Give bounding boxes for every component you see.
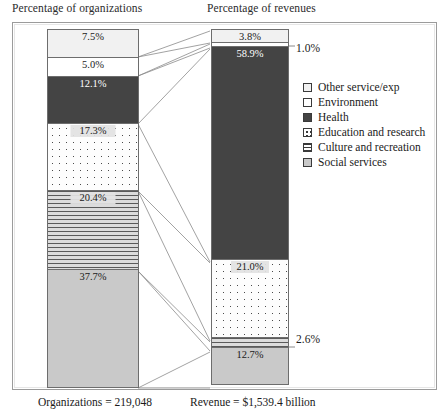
education-swatch-icon [303, 128, 312, 137]
legend-label-education: Education and research [318, 125, 425, 139]
segment-label-education-left: 17.3% [71, 125, 116, 137]
segment-culture-left[interactable]: 20.4% [48, 191, 138, 270]
segment-label-social-right: 12.7% [212, 349, 288, 361]
left-column-title: Percentage of organizations [12, 2, 142, 14]
segment-label-other-right: 3.8% [212, 31, 288, 43]
segment-social-right[interactable]: 12.7% [212, 348, 288, 384]
social-swatch-icon [303, 158, 312, 167]
segment-social-left[interactable]: 37.7% [48, 270, 138, 387]
segment-health-left[interactable]: 12.1% [48, 77, 138, 124]
organizations-stacked-bar: 7.5% 5.0% 12.1% 17.3% 20.4% 37.7% [47, 29, 139, 388]
legend-label-environment: Environment [318, 95, 378, 109]
callout-culture-right: 2.6% [296, 333, 320, 345]
segment-other-left[interactable]: 7.5% [48, 30, 138, 58]
segment-label-environment-left: 5.0% [48, 59, 138, 71]
segment-education-right[interactable]: 21.0% [212, 260, 288, 338]
segment-label-health-left: 12.1% [48, 78, 138, 90]
segment-education-left[interactable]: 17.3% [48, 124, 138, 191]
revenue-total-label: Revenue = $1,539.4 billion [190, 396, 316, 408]
legend-item-education[interactable]: Education and research [303, 125, 425, 139]
legend-item-environment[interactable]: Environment [303, 95, 425, 109]
other-swatch-icon [303, 83, 312, 92]
environment-swatch-icon [303, 98, 312, 107]
culture-swatch-icon [303, 143, 312, 152]
segment-health-right[interactable]: 58.9% [212, 47, 288, 260]
segment-label-education-right: 21.0% [231, 261, 269, 273]
callout-environment-right: 1.0% [296, 42, 320, 54]
legend-label-culture: Culture and recreation [318, 140, 421, 154]
segment-label-culture-left: 20.4% [71, 192, 116, 204]
right-column-title: Percentage of revenues [207, 2, 316, 14]
legend-item-culture[interactable]: Culture and recreation [303, 140, 425, 154]
segment-label-health-right: 58.9% [212, 48, 288, 60]
health-swatch-icon [303, 113, 312, 122]
chart-legend: Other service/exp Environment Health Edu… [303, 80, 425, 169]
segment-other-right[interactable]: 3.8% [212, 30, 288, 43]
legend-label-health: Health [318, 110, 349, 124]
organizations-total-label: Organizations = 219,048 [38, 396, 152, 408]
segment-environment-left[interactable]: 5.0% [48, 58, 138, 77]
segment-label-other-left: 7.5% [48, 31, 138, 43]
legend-item-health[interactable]: Health [303, 110, 425, 124]
segment-culture-right[interactable] [212, 338, 288, 348]
legend-label-social: Social services [318, 155, 387, 169]
legend-item-other[interactable]: Other service/exp [303, 80, 425, 94]
segment-label-social-left: 37.7% [48, 271, 138, 283]
legend-item-social[interactable]: Social services [303, 155, 425, 169]
legend-label-other: Other service/exp [318, 80, 399, 94]
revenues-stacked-bar: 3.8% 58.9% 21.0% 12.7% [211, 29, 289, 385]
